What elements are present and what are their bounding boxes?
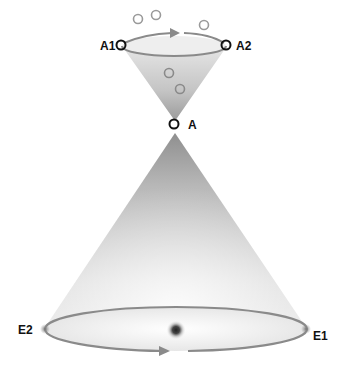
label-e1: E1 — [313, 329, 328, 343]
cone-diagram: A1 A2 A E2 E1 — [0, 0, 355, 391]
label-e2: E2 — [18, 323, 33, 337]
e2-point — [40, 324, 50, 334]
small-funnel — [117, 11, 231, 129]
e1-point — [301, 324, 311, 334]
label-a1: A1 — [100, 39, 116, 53]
particle-circle — [134, 15, 143, 24]
label-a2: A2 — [236, 39, 252, 53]
center-dot — [166, 320, 186, 340]
particle-circle — [152, 11, 161, 20]
large-cone — [40, 133, 311, 356]
particle-circle — [200, 21, 209, 30]
a-marker — [170, 120, 179, 129]
label-a: A — [188, 118, 197, 132]
